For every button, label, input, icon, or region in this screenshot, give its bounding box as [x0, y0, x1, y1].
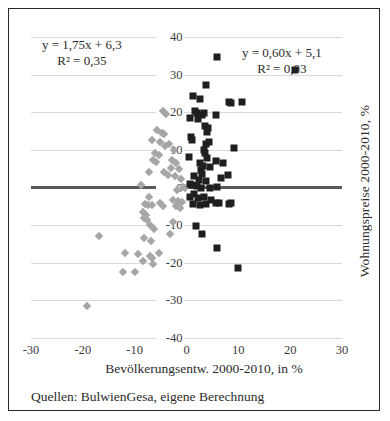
data-point [199, 231, 206, 238]
figure-scatter-plot: 403020100-10-20-30-40 -30-20-100102030 y… [0, 0, 390, 421]
data-point [196, 95, 203, 102]
x-axis-label: Bevölkerungsentw. 2000-2010, in % [9, 361, 390, 377]
data-point [152, 158, 160, 166]
x-axis-tick-labels: -30-20-100102030 [31, 344, 342, 360]
gridline [31, 150, 342, 151]
x-tick-label: -30 [14, 344, 48, 357]
data-point [217, 174, 224, 181]
y-tick-label: -40 [156, 332, 184, 345]
data-point [204, 155, 211, 162]
data-point [145, 167, 153, 175]
data-point [213, 244, 220, 251]
data-point [139, 257, 147, 265]
x-tick-label: -10 [118, 344, 152, 357]
data-point [204, 128, 211, 135]
data-point [186, 193, 193, 200]
data-point [188, 137, 195, 144]
x-tick-label: 0 [170, 344, 204, 357]
source-note: Quellen: BulwienGesa, eigene Berechnung [31, 389, 264, 405]
data-point [207, 164, 214, 171]
data-point [207, 185, 214, 192]
data-point [121, 249, 129, 257]
data-point [203, 82, 210, 89]
data-point [194, 116, 201, 123]
y-tick-label: 40 [156, 31, 184, 44]
data-point [215, 199, 222, 206]
data-point [192, 222, 199, 229]
annotation-left-r2: R² = 0,35 [42, 53, 122, 69]
data-point [185, 153, 192, 160]
annotation-right-r2: R² = 0,03 [242, 61, 322, 77]
data-point [228, 200, 235, 207]
x-tick-label: 30 [325, 344, 359, 357]
data-point [201, 110, 208, 117]
data-point [147, 237, 155, 245]
data-point [145, 192, 153, 200]
annotation-right-regression: y = 0,60x + 5,1 R² = 0,03 [242, 45, 322, 78]
annotation-left-regression: y = 1,75x + 6,3 R² = 0,35 [42, 37, 122, 70]
data-point [203, 201, 210, 208]
x-tick-label: -20 [66, 344, 100, 357]
data-point [198, 184, 205, 191]
plot-area: 403020100-10-20-30-40 [31, 37, 342, 338]
data-point [224, 171, 231, 178]
data-point [213, 183, 220, 190]
annotation-left-equation: y = 1,75x + 6,3 [42, 37, 122, 52]
data-point [239, 98, 246, 105]
y-tick-label: -30 [156, 294, 184, 307]
gridline [31, 300, 342, 301]
x-tick-label: 20 [273, 344, 307, 357]
data-point [119, 268, 127, 276]
data-point [175, 164, 183, 172]
data-point [134, 249, 142, 257]
data-point [228, 100, 235, 107]
y-tick-label: -20 [156, 257, 184, 270]
data-point [189, 92, 196, 99]
y-axis-label: Wohnungspreise 2000-2010, % [357, 105, 373, 277]
data-point [235, 265, 242, 272]
annotation-right-equation: y = 0,60x + 5,1 [242, 45, 322, 60]
data-point [159, 130, 167, 138]
figure-border: 403020100-10-20-30-40 -30-20-100102030 y… [8, 8, 380, 411]
data-point [83, 301, 91, 309]
data-point [213, 54, 220, 61]
x-tick-label: 10 [221, 344, 255, 357]
gridline [31, 225, 342, 226]
data-point [186, 114, 193, 121]
data-point [130, 268, 138, 276]
data-point [231, 145, 238, 152]
data-point [219, 160, 226, 167]
data-point [189, 201, 196, 208]
data-point [212, 111, 219, 118]
gridline [31, 338, 342, 339]
y-tick-label: 30 [156, 68, 184, 81]
data-point [95, 231, 103, 239]
gridline [31, 263, 342, 264]
